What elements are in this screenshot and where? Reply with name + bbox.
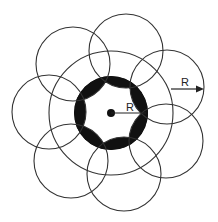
inner-radius-label: R — [126, 101, 134, 113]
outer-radius-label: R — [181, 76, 189, 88]
arrowhead-icon — [196, 86, 204, 93]
circle-packing-diagram: R R — [0, 0, 218, 222]
small-circle-top — [89, 14, 163, 88]
